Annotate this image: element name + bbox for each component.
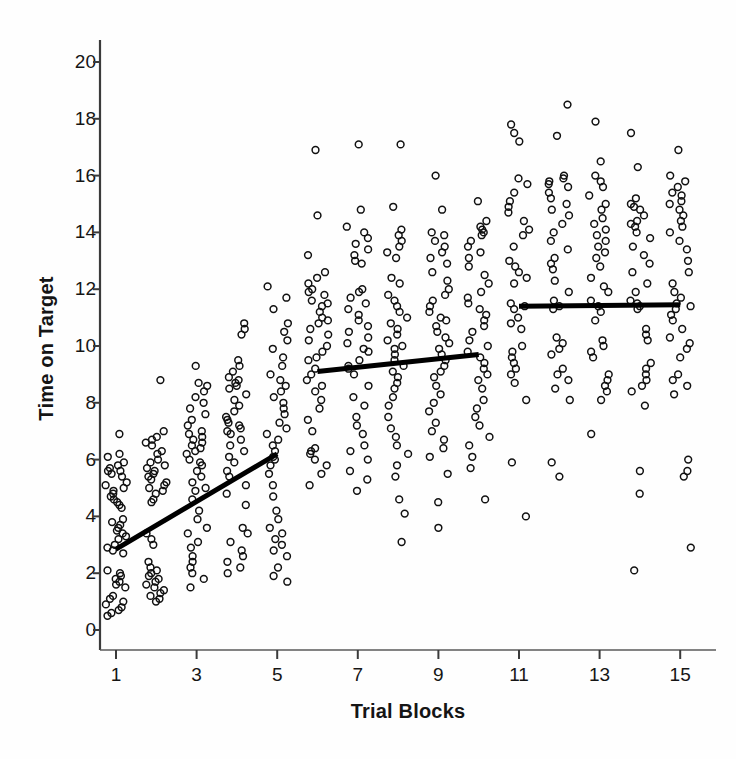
data-point <box>559 221 566 228</box>
data-point <box>404 314 411 321</box>
data-point <box>160 428 167 435</box>
data-point <box>204 524 211 531</box>
data-point <box>277 377 284 384</box>
data-point <box>362 300 369 307</box>
data-point <box>315 320 322 327</box>
data-point <box>319 382 326 389</box>
data-point <box>642 402 649 409</box>
data-point <box>391 385 398 392</box>
data-point <box>669 280 676 287</box>
data-point <box>365 323 372 330</box>
data-point <box>475 377 482 384</box>
data-point <box>194 516 201 523</box>
data-point <box>479 385 486 392</box>
data-point <box>364 476 371 483</box>
data-point <box>506 257 513 264</box>
data-point <box>223 490 230 497</box>
data-point <box>202 485 209 492</box>
data-point <box>195 539 202 546</box>
data-point <box>632 289 639 296</box>
data-point <box>120 485 127 492</box>
data-point <box>511 280 518 287</box>
data-point <box>480 397 487 404</box>
data-point <box>511 130 518 137</box>
data-point <box>272 536 279 543</box>
data-point <box>224 570 231 577</box>
data-point <box>365 235 372 242</box>
data-point <box>669 189 676 196</box>
data-point <box>437 368 444 375</box>
data-point <box>384 249 391 256</box>
data-point <box>515 314 522 321</box>
data-point <box>592 118 599 125</box>
data-point <box>554 371 561 378</box>
data-point <box>634 164 641 171</box>
data-point <box>313 354 320 361</box>
data-point <box>283 425 290 432</box>
data-point <box>122 584 129 591</box>
data-point <box>283 294 290 301</box>
data-point <box>597 263 604 270</box>
data-point <box>551 297 558 304</box>
data-point <box>441 232 448 239</box>
data-point <box>398 539 405 546</box>
data-point <box>270 306 277 313</box>
data-point <box>679 326 686 333</box>
data-point <box>388 425 395 432</box>
data-point <box>511 189 518 196</box>
data-point <box>439 249 446 256</box>
data-point <box>526 226 533 233</box>
data-point <box>476 422 483 429</box>
data-point <box>641 212 648 219</box>
data-point <box>602 226 609 233</box>
data-point <box>201 388 208 395</box>
data-point <box>354 487 361 494</box>
data-point <box>270 547 277 554</box>
data-point <box>684 246 691 253</box>
data-point <box>433 382 440 389</box>
data-point <box>384 337 391 344</box>
data-point <box>264 431 271 438</box>
data-point <box>508 320 515 327</box>
data-point <box>647 235 654 242</box>
data-point <box>602 238 609 245</box>
data-point <box>685 456 692 463</box>
data-point <box>646 260 653 267</box>
data-point <box>435 524 442 531</box>
data-point <box>597 309 604 316</box>
data-point <box>365 334 372 341</box>
data-point <box>602 249 609 256</box>
data-point <box>161 462 168 469</box>
data-point <box>346 328 353 335</box>
data-point <box>226 385 233 392</box>
data-point <box>685 269 692 276</box>
data-point <box>361 402 368 409</box>
data-point <box>243 391 250 398</box>
data-point <box>392 473 399 480</box>
data-point <box>284 337 291 344</box>
data-point <box>319 348 326 355</box>
data-point <box>390 394 397 401</box>
data-point <box>243 482 250 489</box>
data-point <box>304 377 311 384</box>
data-point <box>593 255 600 262</box>
data-point <box>120 550 127 557</box>
data-point <box>485 280 492 287</box>
data-point <box>316 405 323 412</box>
data-point <box>308 297 315 304</box>
data-point <box>244 530 251 537</box>
data-point <box>565 377 572 384</box>
data-point <box>429 428 436 435</box>
data-point <box>633 195 640 202</box>
data-point <box>396 496 403 503</box>
data-point <box>519 343 526 350</box>
data-point <box>281 328 288 335</box>
data-point <box>588 297 595 304</box>
data-point <box>432 419 439 426</box>
data-point <box>109 519 116 526</box>
data-point <box>548 238 555 245</box>
data-point <box>305 416 312 423</box>
data-point <box>520 232 527 239</box>
data-point <box>270 493 277 500</box>
data-point <box>318 470 325 477</box>
